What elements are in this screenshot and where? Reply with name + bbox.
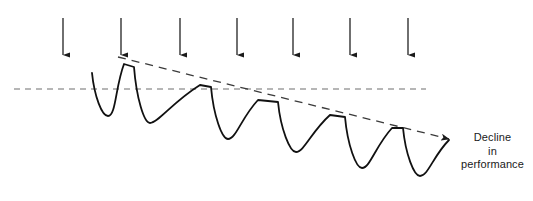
caption-line-3: performance (452, 158, 533, 172)
performance-sawtooth-curve (92, 64, 449, 176)
applied-load-arrows (63, 18, 408, 55)
caption-line-1: Decline (452, 131, 533, 145)
declining-trend-dashed-line (118, 57, 449, 139)
decline-in-performance-label: Decline in performance (452, 131, 533, 172)
caption-line-2: in (452, 145, 533, 159)
performance-decline-figure: Decline in performance (0, 0, 533, 201)
